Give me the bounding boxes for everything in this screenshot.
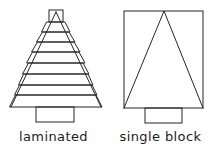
single-block-panel bbox=[124, 11, 203, 123]
lamination-layer bbox=[27, 52, 85, 63]
laminated-panel bbox=[10, 10, 102, 122]
single-block-inscribed-triangle bbox=[124, 11, 203, 108]
laminated-base-block bbox=[36, 107, 74, 122]
figure-root: laminated single block bbox=[0, 0, 214, 154]
lamination-layer bbox=[23, 63, 89, 74]
lamination-profile-edge-right bbox=[56, 12, 101, 107]
lamination-layer bbox=[10, 95, 102, 107]
lamination-layer bbox=[42, 22, 70, 32]
single-block-outline bbox=[124, 11, 203, 108]
lamination-layer bbox=[19, 74, 93, 85]
diagram-canvas bbox=[0, 0, 214, 154]
lamination-profile-edge-left bbox=[11, 12, 56, 107]
lamination-layer bbox=[15, 85, 97, 95]
single-block-base-block bbox=[145, 108, 182, 123]
